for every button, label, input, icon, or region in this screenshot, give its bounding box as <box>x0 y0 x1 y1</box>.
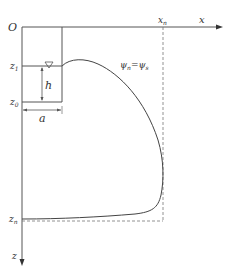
z1-label: z1 <box>9 61 19 72</box>
a-arrow-left-icon <box>23 109 27 112</box>
origin-label: O <box>8 21 17 34</box>
z-axis-label: z <box>11 251 17 261</box>
x-axis-label: x <box>199 14 205 25</box>
x-axis-arrow-icon <box>216 25 223 30</box>
z0-subscript: 0 <box>15 101 19 108</box>
water-level-icon <box>45 62 53 68</box>
curve-label: ψn=ψs <box>120 60 149 71</box>
equals-sign: = <box>131 60 139 70</box>
a-label: a <box>39 112 46 125</box>
h-label: h <box>45 79 52 92</box>
diagram-canvas: O x xn z1 z0 zn z h a ψn=ψs <box>0 0 231 275</box>
z-axis-arrow-icon <box>20 259 25 266</box>
z0-label: z0 <box>9 97 19 108</box>
xn-subscript: n <box>163 19 167 26</box>
a-arrow-right-icon <box>57 109 61 112</box>
z1-subscript: 1 <box>15 65 19 72</box>
h-arrow-down-icon <box>41 97 44 101</box>
seepage-curve <box>22 60 163 219</box>
h-arrow-up-icon <box>41 67 44 71</box>
psi-s-subscript: s <box>146 64 149 71</box>
zn-subscript: n <box>14 218 18 225</box>
xn-label: xn <box>158 15 167 26</box>
zn-label: zn <box>8 214 18 225</box>
